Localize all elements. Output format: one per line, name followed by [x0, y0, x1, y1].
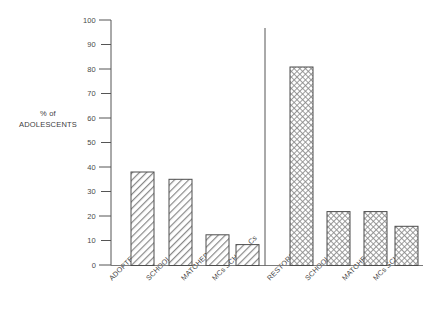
plot-area [0, 0, 423, 331]
bar-restored [290, 67, 313, 266]
bar-mcs-school-cs-2 [395, 226, 418, 265]
bar-group-adopted [131, 172, 259, 266]
bar-adopted [131, 172, 154, 266]
bar-matched-cs-1 [206, 235, 229, 266]
bar-school-cs-1 [169, 179, 192, 265]
y-axis [99, 20, 111, 266]
bar-mcs-school-cs-1 [236, 245, 259, 266]
bar-matched-cs-2 [364, 212, 387, 266]
bar-chart: % of ADOLESCENTS 100 90 80 70 60 50 40 3… [0, 0, 423, 331]
bar-school-cs-2 [327, 212, 350, 266]
bar-group-restored [290, 67, 418, 266]
